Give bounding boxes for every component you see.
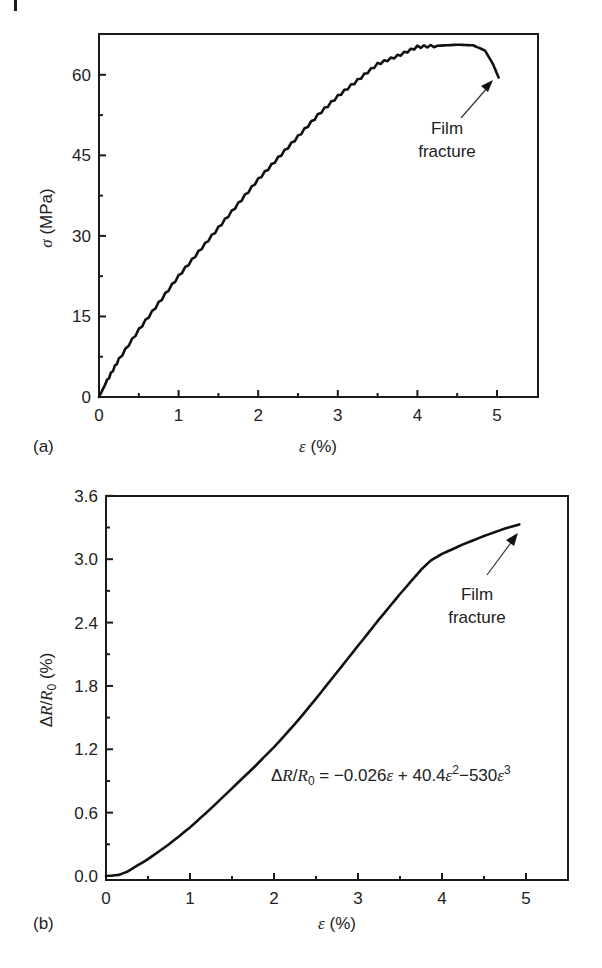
x-tick-label: 1	[185, 889, 194, 908]
chart-b-x-tick-labels: 012345	[101, 889, 530, 908]
x-tick-label: 5	[521, 889, 530, 908]
chart-b-y-tick-labels: 0.00.61.21.82.43.03.6	[74, 487, 98, 886]
y-tick-label: 1.2	[74, 740, 98, 759]
x-tick-label: 4	[437, 889, 446, 908]
arrowhead-icon	[506, 533, 518, 546]
chart-b-frame	[106, 496, 568, 880]
chart-b-annotation-text-2: fracture	[448, 608, 506, 627]
y-tick-label: 1.8	[74, 677, 98, 696]
y-tick-label: 0.6	[74, 804, 98, 823]
x-tick-label: 2	[269, 889, 278, 908]
y-tick-label: 0.0	[74, 867, 98, 886]
y-tick-label: 3.6	[74, 487, 98, 506]
x-tick-label: 0	[101, 889, 110, 908]
chart-b-curve	[106, 524, 519, 876]
y-tick-label: 2.4	[74, 614, 98, 633]
x-tick-label: 3	[353, 889, 362, 908]
y-tick-label: 3.0	[74, 550, 98, 569]
chart-b-equation: ΔR/R0 = −0.026ε + 40.4ε2−530ε3	[271, 763, 511, 788]
chart-b-panel-label: (b)	[33, 914, 54, 933]
chart-b-annotation-text: Film	[461, 585, 493, 604]
resistance-strain-chart: 0.00.61.21.82.43.03.6 012345 ΔR/R0 (%) ε…	[0, 0, 602, 968]
chart-b-y-axis-title: ΔR/R0 (%)	[37, 653, 59, 728]
chart-b-ticks	[106, 496, 526, 880]
chart-b-annotation-arrow-line	[487, 540, 513, 575]
chart-b-x-axis-title: ε (%)	[318, 914, 356, 933]
